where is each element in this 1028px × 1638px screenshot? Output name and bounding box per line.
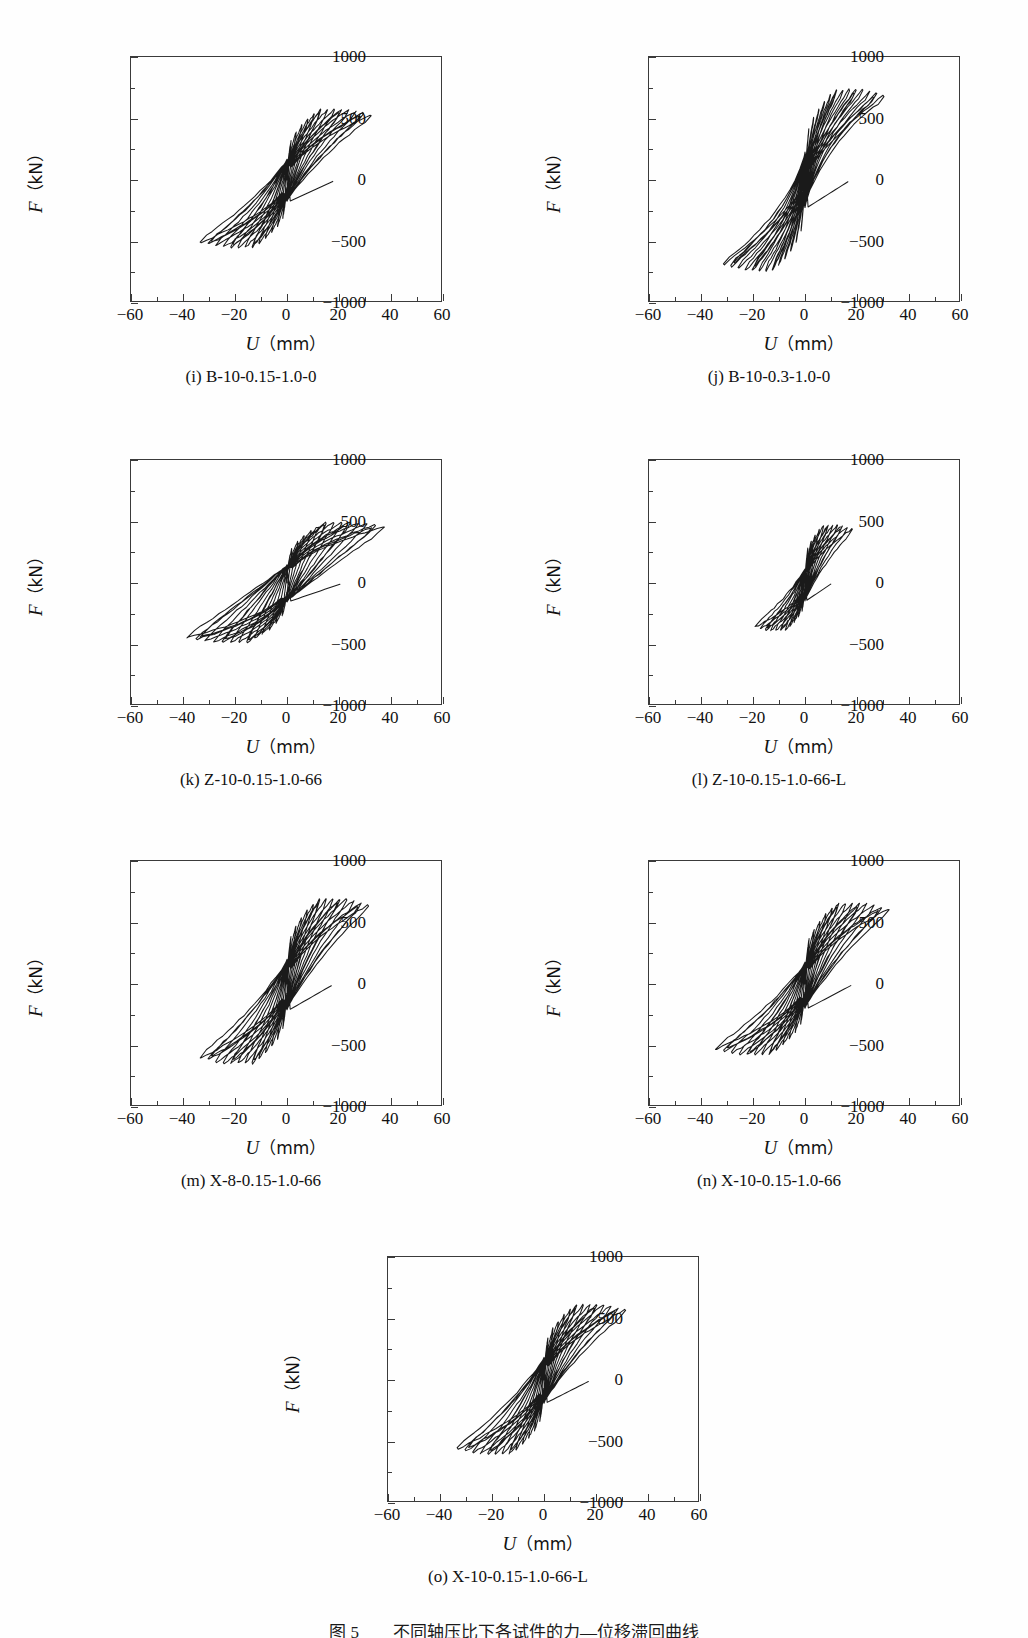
y-axis-tick: [131, 303, 138, 304]
x-axis-tick-label: −60: [117, 1110, 144, 1127]
x-axis-tick-label: −60: [117, 306, 144, 323]
axes-frame-o: [387, 1256, 699, 1502]
y-axis-unit: （kN）: [544, 548, 564, 605]
panel-i: F（kN） U（mm） 10005000−500−1000−60−40−2002…: [20, 22, 482, 402]
plot-area-n: F（kN） U（mm） 10005000−500−1000−60−40−2002…: [538, 826, 1000, 1126]
x-axis-tick-label: −20: [739, 1110, 766, 1127]
x-axis-tick-label: 40: [382, 306, 399, 323]
x-axis-title-k: U（mm）: [246, 733, 327, 758]
y-axis-tick-label: 0: [358, 171, 367, 188]
x-axis-tick-label: 0: [282, 709, 291, 726]
y-axis-tick-label: 1000: [332, 852, 366, 869]
x-axis-unit: （mm）: [259, 334, 326, 354]
y-axis-title-i: F（kN）: [22, 145, 47, 213]
axes-frame-j: [648, 56, 960, 302]
y-axis-title-l: F（kN）: [540, 548, 565, 616]
panel-caption-l: (l) Z-10-0.15-1.0-66-L: [538, 770, 1000, 790]
y-axis-symbol: F: [543, 604, 564, 616]
x-axis-tick: [961, 697, 962, 704]
x-axis-tick-label: −20: [221, 709, 248, 726]
figure-sheet: F（kN） U（mm） 10005000−500−1000−60−40−2002…: [0, 0, 1028, 1638]
curve-path-i: [200, 109, 371, 248]
y-axis-unit: （kN）: [283, 1345, 303, 1402]
x-axis-tick-label: 20: [848, 1110, 865, 1127]
x-axis-tick-label: 0: [282, 1110, 291, 1127]
y-axis-tick-label: 500: [598, 1309, 624, 1326]
x-axis-tick: [443, 294, 444, 301]
axes-frame-m: [130, 860, 442, 1106]
y-axis-tick-label: 0: [876, 975, 885, 992]
y-axis-tick-label: −500: [331, 1036, 366, 1053]
x-axis-tick-label: −40: [169, 1110, 196, 1127]
panel-k: F（kN） U（mm） 10005000−500−1000−60−40−2002…: [20, 425, 482, 805]
plot-area-o: F（kN） U（mm） 10005000−500−1000−60−40−2002…: [277, 1222, 739, 1522]
y-axis-tick-label: −500: [588, 1432, 623, 1449]
y-axis-title-n: F（kN）: [540, 949, 565, 1017]
x-axis-tick-label: 20: [330, 709, 347, 726]
x-axis-title-n: U（mm）: [764, 1134, 845, 1159]
x-axis-tick-label: −60: [635, 1110, 662, 1127]
y-axis-tick-label: 1000: [850, 852, 884, 869]
y-axis-title-j: F（kN）: [540, 145, 565, 213]
x-axis-tick: [961, 294, 962, 301]
y-axis-tick-label: 1000: [332, 48, 366, 65]
y-axis-symbol: F: [25, 604, 46, 616]
axes-frame-l: [648, 459, 960, 705]
x-axis-tick-label: 40: [900, 306, 917, 323]
y-axis-symbol: F: [25, 201, 46, 213]
x-axis-tick-label: 0: [800, 1110, 809, 1127]
x-axis-title-j: U（mm）: [764, 330, 845, 355]
panel-n: F（kN） U（mm） 10005000−500−1000−60−40−2002…: [538, 826, 1000, 1206]
x-axis-tick-label: −20: [739, 709, 766, 726]
x-axis-tick-label: 20: [848, 306, 865, 323]
y-axis-tick: [388, 1503, 395, 1504]
y-axis-tick-label: 500: [341, 109, 367, 126]
y-axis-tick-label: −500: [849, 635, 884, 652]
x-axis-title-o: U（mm）: [503, 1530, 584, 1555]
y-axis-symbol: F: [543, 201, 564, 213]
x-axis-tick-label: −20: [221, 1110, 248, 1127]
y-axis-tick-label: 1000: [332, 451, 366, 468]
y-axis-tick-label: −500: [331, 232, 366, 249]
hysteresis-curve-k: [131, 460, 443, 706]
x-axis-tick-label: 0: [282, 306, 291, 323]
panel-m: F（kN） U（mm） 10005000−500−1000−60−40−2002…: [20, 826, 482, 1206]
plot-area-l: F（kN） U（mm） 10005000−500−1000−60−40−2002…: [538, 425, 1000, 725]
y-axis-tick: [649, 303, 656, 304]
x-axis-tick-label: −60: [117, 709, 144, 726]
y-axis-tick-label: −500: [331, 635, 366, 652]
x-axis-symbol: U: [503, 1533, 517, 1554]
x-axis-tick-label: −40: [169, 306, 196, 323]
x-axis-tick-label: −60: [374, 1506, 401, 1523]
x-axis-tick-label: 40: [639, 1506, 656, 1523]
hysteresis-curve-m: [131, 861, 443, 1107]
panel-o: F（kN） U（mm） 10005000−500−1000−60−40−2002…: [277, 1222, 739, 1602]
y-axis-tick-label: 500: [341, 913, 367, 930]
y-axis-tick-label: 1000: [850, 48, 884, 65]
plot-area-k: F（kN） U（mm） 10005000−500−1000−60−40−2002…: [20, 425, 482, 725]
x-axis-tick-label: 60: [952, 709, 969, 726]
x-axis-tick-label: 60: [952, 1110, 969, 1127]
panel-j: F（kN） U（mm） 10005000−500−1000−60−40−2002…: [538, 22, 1000, 402]
x-axis-tick-label: 0: [539, 1506, 548, 1523]
y-axis-tick-label: 0: [876, 171, 885, 188]
y-axis-unit: （kN）: [26, 548, 46, 605]
y-axis-tick-label: 1000: [850, 451, 884, 468]
x-axis-tick-label: 0: [800, 709, 809, 726]
y-axis-title-k: F（kN）: [22, 548, 47, 616]
x-axis-tick-label: −60: [635, 709, 662, 726]
x-axis-title-m: U（mm）: [246, 1134, 327, 1159]
y-axis-tick-label: 0: [358, 975, 367, 992]
hysteresis-curve-l: [649, 460, 961, 706]
x-axis-tick-label: −20: [739, 306, 766, 323]
x-axis-tick-label: 60: [691, 1506, 708, 1523]
y-axis-unit: （kN）: [544, 145, 564, 202]
axes-frame-n: [648, 860, 960, 1106]
x-axis-symbol: U: [246, 736, 260, 757]
x-axis-tick: [443, 1098, 444, 1105]
y-axis-tick-label: 500: [859, 109, 885, 126]
x-axis-unit: （mm）: [777, 1138, 844, 1158]
x-axis-tick-label: −40: [687, 1110, 714, 1127]
x-axis-symbol: U: [246, 333, 260, 354]
y-axis-tick: [649, 1107, 656, 1108]
